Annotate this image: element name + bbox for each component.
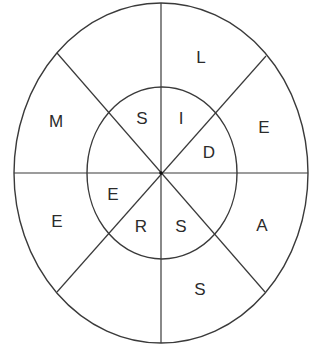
inner-letter-nw-n: S	[136, 109, 147, 128]
outer-letter-n-ne: L	[196, 48, 205, 67]
outer-letter-se-s: S	[194, 280, 205, 299]
outer-letter-ne-e: E	[258, 118, 269, 137]
inner-letter-sw-w: E	[107, 185, 118, 204]
inner-letter-se-s: S	[175, 217, 186, 236]
center-point	[159, 171, 163, 175]
inner-letter-s-sw: R	[135, 217, 147, 236]
letter-wheel-diagram: L E A S E M I D S R E S	[0, 0, 314, 356]
outer-letter-e-se: A	[256, 216, 268, 235]
outer-letter-w-nw: M	[49, 112, 63, 131]
inner-letter-n-ne: I	[179, 109, 184, 128]
inner-letter-ne-e: D	[203, 143, 215, 162]
outer-letter-sw-w: E	[51, 212, 62, 231]
